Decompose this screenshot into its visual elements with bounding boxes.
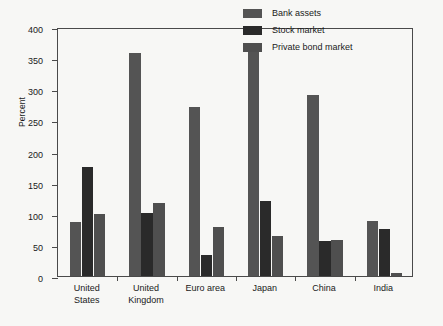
legend-label: Stock market <box>272 25 325 35</box>
bar <box>153 203 165 276</box>
y-tick: 400 <box>52 29 58 30</box>
y-tick-label: 0 <box>38 274 43 284</box>
x-tick <box>177 276 178 281</box>
y-tick-label: 250 <box>28 118 43 128</box>
bar <box>331 240 343 276</box>
bar <box>379 229 391 276</box>
bar <box>367 221 379 276</box>
legend-item: Stock market <box>243 25 353 35</box>
bar <box>70 222 82 276</box>
x-tick <box>355 276 356 281</box>
legend-item: Private bond market <box>243 42 353 52</box>
y-tick: 200 <box>52 154 58 155</box>
bar <box>272 236 284 276</box>
chart-figure: Percent 050100150200250300350400 United … <box>0 0 443 326</box>
legend-label: Private bond market <box>272 42 353 52</box>
y-tick: 300 <box>52 91 58 92</box>
x-category-label: China <box>294 283 353 295</box>
y-tick-label: 300 <box>28 87 43 97</box>
x-tick <box>236 276 237 281</box>
bar <box>129 53 141 276</box>
y-tick: 0 <box>52 278 58 279</box>
bar <box>94 214 106 276</box>
x-category-label: India <box>354 283 413 295</box>
y-tick-label: 400 <box>28 25 43 35</box>
bar <box>213 227 225 276</box>
y-tick: 50 <box>52 247 58 248</box>
x-tick <box>117 276 118 281</box>
bar <box>201 255 213 276</box>
x-tick <box>295 276 296 281</box>
bar <box>248 50 260 276</box>
y-tick: 350 <box>52 60 58 61</box>
bar <box>189 107 201 276</box>
bar <box>82 167 94 276</box>
y-tick: 100 <box>52 216 58 217</box>
legend-swatch-icon <box>243 9 262 18</box>
legend-swatch-icon <box>243 43 262 52</box>
plot-area: 050100150200250300350400 <box>57 28 413 277</box>
y-tick-label: 100 <box>28 212 43 222</box>
legend-swatch-icon <box>243 26 262 35</box>
x-category-label: United Kingdom <box>116 283 175 306</box>
bar <box>260 201 272 276</box>
y-tick-label: 50 <box>33 243 43 253</box>
x-category-label: United States <box>57 283 116 306</box>
y-tick: 150 <box>52 185 58 186</box>
legend-label: Bank assets <box>272 8 321 18</box>
bar <box>319 241 331 276</box>
y-tick-label: 200 <box>28 150 43 160</box>
chart-legend: Bank assetsStock marketPrivate bond mark… <box>243 8 353 52</box>
y-tick-label: 150 <box>28 181 43 191</box>
legend-item: Bank assets <box>243 8 353 18</box>
x-category-label: Euro area <box>176 283 235 295</box>
bar <box>307 95 319 276</box>
bar <box>391 273 403 276</box>
bar <box>141 213 153 276</box>
y-tick-label: 350 <box>28 56 43 66</box>
x-category-label: Japan <box>235 283 294 295</box>
y-tick: 250 <box>52 122 58 123</box>
